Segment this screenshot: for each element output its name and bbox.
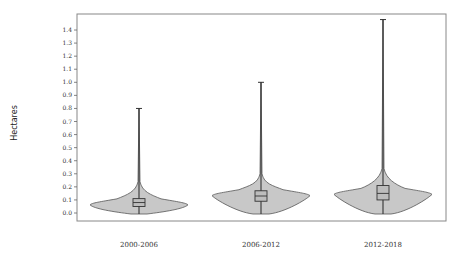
x-category-label: 2012-2018 — [364, 241, 402, 249]
y-tick-label: 1.3 — [62, 39, 72, 46]
y-tick-label: 0.7 — [62, 118, 72, 125]
y-tick-label: 0.9 — [62, 91, 72, 98]
y-tick-label: 1.0 — [62, 78, 72, 85]
x-category-label: 2006-2012 — [242, 241, 280, 249]
y-tick-label: 1.4 — [62, 26, 72, 33]
x-axis-labels: 2000-20062006-20122012-2018 — [120, 241, 402, 249]
y-tick-label: 1.2 — [62, 52, 72, 59]
x-category-label: 2000-2006 — [120, 241, 159, 249]
y-tick-label: 0.8 — [62, 104, 72, 111]
y-tick-label: 0.3 — [62, 170, 72, 177]
y-tick-label: 0.0 — [62, 209, 72, 216]
y-axis-label: Hectares — [10, 105, 19, 141]
y-tick-label: 0.5 — [62, 144, 72, 151]
y-axis: 0.00.10.20.30.40.50.60.70.80.91.01.11.21… — [62, 26, 77, 216]
iqr-box — [377, 186, 389, 200]
y-tick-label: 0.4 — [62, 157, 72, 164]
violin-chart: 0.00.10.20.30.40.50.60.70.80.91.01.11.21… — [0, 0, 457, 265]
y-tick-label: 1.1 — [62, 65, 72, 72]
y-tick-label: 0.6 — [62, 131, 72, 138]
y-tick-label: 0.2 — [62, 183, 72, 190]
y-tick-label: 0.1 — [62, 196, 72, 203]
